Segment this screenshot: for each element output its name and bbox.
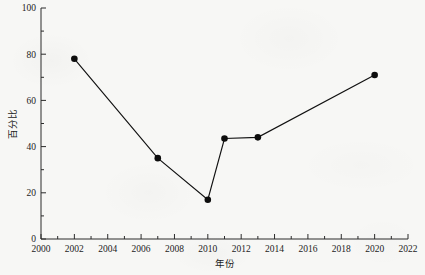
x-axis-tick-label: 2000 — [32, 244, 51, 254]
data-point-marker — [255, 134, 262, 141]
data-point-marker — [154, 155, 161, 162]
tick-mark-group — [41, 8, 408, 239]
line-chart: 020406080100 200020022004200620082010201… — [0, 0, 425, 275]
y-axis-tick-label: 20 — [27, 188, 37, 198]
x-axis-tick-label-group: 2000200220042006200820102012201420162018… — [32, 244, 418, 254]
x-axis-tick-label: 2010 — [198, 244, 217, 254]
y-axis-tick-label: 0 — [31, 234, 36, 244]
x-axis-tick-label: 2014 — [265, 244, 284, 254]
data-point-marker — [371, 72, 378, 79]
x-axis-tick-label: 2006 — [132, 244, 151, 254]
data-point-marker — [221, 135, 228, 142]
x-axis-tick-label: 2016 — [298, 244, 317, 254]
y-axis-tick-label: 40 — [27, 142, 37, 152]
data-point-marker — [71, 56, 78, 63]
x-axis-tick-label: 2012 — [232, 244, 251, 254]
x-axis-title: 年份 — [215, 258, 235, 269]
x-axis-tick-label: 2004 — [98, 244, 117, 254]
y-axis-tick-label-group: 020406080100 — [22, 3, 37, 244]
x-axis-tick-label: 2018 — [332, 244, 351, 254]
x-axis-tick-label: 2002 — [65, 244, 84, 254]
series-line-path — [74, 59, 374, 200]
y-axis-title: 百分比 — [7, 109, 18, 139]
x-axis-tick-label: 2008 — [165, 244, 184, 254]
x-axis-tick-label: 2020 — [365, 244, 384, 254]
series-marker-group — [71, 56, 378, 204]
data-point-marker — [205, 196, 212, 203]
x-axis-tick-label: 2022 — [399, 244, 418, 254]
y-axis-tick-label: 80 — [27, 50, 37, 60]
y-axis-tick-label: 100 — [22, 3, 37, 13]
chart-canvas: 020406080100 200020022004200620082010201… — [0, 0, 425, 275]
y-axis-tick-label: 60 — [27, 96, 37, 106]
